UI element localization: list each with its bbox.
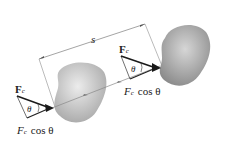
component-F: F [124, 85, 131, 97]
body-left [54, 62, 106, 122]
body-right [160, 25, 210, 86]
angle-label-right: θ [131, 65, 135, 74]
force-symbol: F [15, 83, 22, 95]
angle-label-left: θ [27, 105, 31, 114]
component-sub: c [131, 89, 134, 97]
component-label-left: Fc cos θ [17, 121, 54, 137]
force-triangle-right [121, 56, 161, 79]
force-subscript: c [126, 47, 129, 55]
force-symbol: F [119, 43, 126, 55]
force-subscript: c [22, 87, 25, 95]
component-sub: c [24, 128, 27, 136]
component-rest: cos θ [138, 85, 161, 97]
distance-label: s [91, 34, 95, 45]
component-rest: cos θ [31, 124, 54, 136]
component-F: F [17, 124, 24, 136]
force-label-right: Fc [119, 44, 129, 55]
force-triangle-left [17, 96, 54, 118]
component-label-right: Fc cos θ [124, 82, 161, 98]
force-label-left: Fc [15, 84, 25, 95]
